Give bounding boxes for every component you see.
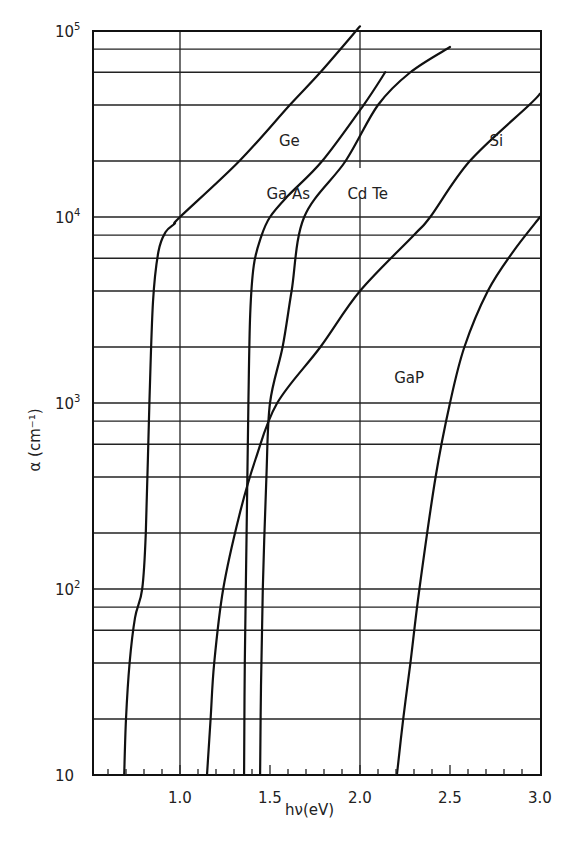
- curve-cdte: [260, 47, 450, 775]
- grid-lines: [93, 31, 541, 775]
- label-gap: GaP: [394, 369, 424, 387]
- absorption-chart: 1.01.52.02.53.0 10102103104105 GeGa AsCd…: [0, 0, 572, 841]
- x-axis-label: hν(eV): [285, 801, 334, 819]
- curve-gap: [397, 217, 540, 775]
- x-tick-label: 1.5: [258, 789, 282, 807]
- series-labels: GeGa AsCd TeSiGaP: [266, 132, 503, 387]
- curve-gaas: [244, 72, 385, 775]
- y-tick-label: 104: [55, 207, 80, 227]
- label-cdte: Cd Te: [347, 185, 388, 203]
- x-tick-label: 1.0: [168, 789, 192, 807]
- label-si: Si: [490, 132, 504, 150]
- axis-ticks: [108, 765, 522, 775]
- x-tick-label: 2.5: [438, 789, 462, 807]
- y-axis-label: α (cm⁻¹): [26, 408, 44, 471]
- x-tick-labels: 1.01.52.02.53.0: [168, 789, 552, 807]
- y-tick-label: 102: [55, 579, 80, 599]
- y-tick-label: 10: [55, 767, 74, 785]
- label-ge: Ge: [279, 132, 300, 150]
- y-tick-labels: 10102103104105: [55, 21, 80, 785]
- x-tick-label: 2.0: [348, 789, 372, 807]
- y-tick-label: 105: [55, 21, 80, 41]
- label-gaas: Ga As: [266, 185, 310, 203]
- y-tick-label: 103: [55, 393, 80, 413]
- x-tick-label: 3.0: [528, 789, 552, 807]
